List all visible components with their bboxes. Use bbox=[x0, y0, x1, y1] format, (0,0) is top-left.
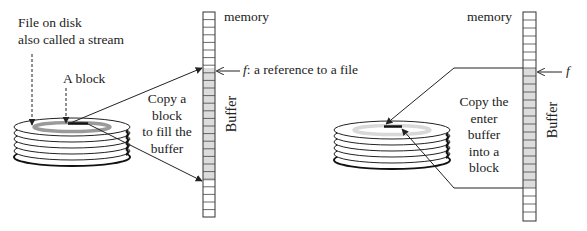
file-label-line2: also called a stream bbox=[18, 32, 124, 49]
left-memory-label: memory bbox=[224, 9, 269, 26]
ref-text: : a reference to a file bbox=[247, 62, 358, 77]
left-copy-text: Copy a block to fill the buffer bbox=[124, 91, 210, 157]
copy-line-3: buffer bbox=[444, 127, 524, 144]
left-disk-stack bbox=[14, 118, 130, 166]
a-block-label: A block bbox=[63, 71, 105, 88]
left-buffer-label: Buffer bbox=[224, 92, 240, 136]
copy-line-4: into a bbox=[444, 144, 524, 161]
file-label-line1: File on disk bbox=[18, 15, 124, 32]
copy-line-1: Copy the bbox=[444, 94, 524, 111]
left-ref-label: f: a reference to a file bbox=[243, 62, 358, 79]
right-copy-text: Copy the enter buffer into a block bbox=[444, 94, 524, 177]
right-disk-stack bbox=[334, 121, 450, 169]
copy-line-4: buffer bbox=[124, 141, 210, 158]
copy-line-1: Copy a bbox=[124, 91, 210, 108]
right-ref-label: f bbox=[566, 63, 570, 80]
copy-line-5: block bbox=[444, 160, 524, 177]
copy-line-2: enter bbox=[444, 111, 524, 128]
right-memory-label: memory bbox=[467, 9, 512, 26]
copy-line-3: to fill the bbox=[124, 124, 210, 141]
right-buffer-label: Buffer bbox=[545, 98, 561, 142]
copy-line-2: block bbox=[124, 108, 210, 125]
right-memory-column bbox=[523, 12, 536, 221]
file-on-disk-label: File on disk also called a stream bbox=[18, 15, 124, 48]
